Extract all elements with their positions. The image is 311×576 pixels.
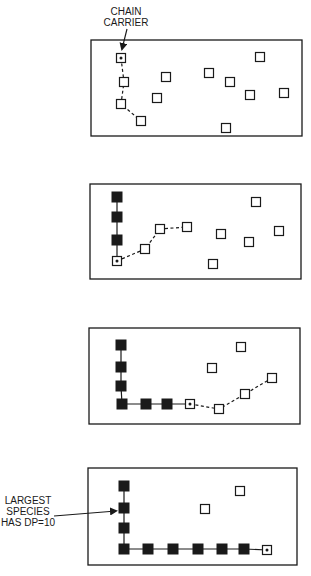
monomer-open-square-icon	[217, 230, 226, 239]
monomer-open-square-icon	[246, 91, 255, 100]
monomer-open-square-icon	[162, 73, 171, 82]
monomer-reacted-square-icon	[116, 381, 126, 391]
monomer-open-square-icon	[205, 69, 214, 78]
polymer-chain-bond	[121, 345, 190, 404]
monomer-open-square-icon	[268, 374, 277, 383]
chain-carrier-arrow-icon	[122, 29, 127, 49]
panel-3	[89, 328, 300, 424]
chain-carrier-label-line1: CHAIN	[110, 6, 141, 17]
monomer-open-square-icon	[241, 390, 250, 399]
monomer-open-square-icon	[209, 260, 218, 269]
monomer-open-square-icon	[117, 100, 126, 109]
monomer-open-square-icon	[141, 245, 150, 254]
chain-carrier-annotation: CHAIN CARRIER	[103, 6, 148, 49]
monomer-reacted-square-icon	[193, 544, 203, 554]
chain-carrier-dot-icon	[120, 57, 123, 60]
monomer-open-square-icon	[183, 223, 192, 232]
monomer-open-square-icon	[120, 78, 129, 87]
monomer-reacted-square-icon	[162, 399, 172, 409]
monomer-open-square-icon	[275, 227, 284, 236]
panels-group	[88, 40, 302, 565]
monomer-reacted-square-icon	[119, 503, 129, 513]
monomer-open-square-icon	[256, 53, 265, 62]
monomer-reacted-square-icon	[168, 544, 178, 554]
chain-carrier-dot-icon	[189, 403, 192, 406]
monomer-reacted-square-icon	[119, 481, 129, 491]
monomer-open-square-icon	[280, 89, 289, 98]
panel-2	[90, 184, 301, 279]
chain-carrier-dot-icon	[266, 549, 269, 552]
monomer-open-square-icon	[236, 487, 245, 496]
monomer-open-square-icon	[215, 405, 224, 414]
chain-carrier-label-line2: CARRIER	[103, 17, 148, 28]
polymer-chain-bond	[124, 486, 267, 550]
monomer-open-square-icon	[153, 94, 162, 103]
monomer-reacted-square-icon	[112, 192, 122, 202]
largest-species-annotation: LARGEST SPECIES HAS DP=10	[1, 495, 116, 528]
panel-4	[88, 468, 297, 565]
monomer-open-square-icon	[245, 238, 254, 247]
monomer-reacted-square-icon	[217, 544, 227, 554]
largest-species-arrow-icon	[54, 511, 116, 516]
largest-species-label-line2: SPECIES	[6, 506, 50, 517]
monomer-open-square-icon	[226, 78, 235, 87]
reaction-path-dashed	[117, 227, 187, 261]
monomer-reacted-square-icon	[117, 399, 127, 409]
monomer-open-square-icon	[208, 364, 217, 373]
monomer-open-square-icon	[237, 343, 246, 352]
monomer-open-square-icon	[156, 225, 165, 234]
monomer-reacted-square-icon	[112, 235, 122, 245]
chain-carrier-dot-icon	[116, 260, 119, 263]
monomer-reacted-square-icon	[116, 340, 126, 350]
monomer-open-square-icon	[201, 505, 210, 514]
largest-species-label-line1: LARGEST	[5, 495, 52, 506]
monomer-reacted-square-icon	[143, 544, 153, 554]
monomer-open-square-icon	[137, 117, 146, 126]
monomer-reacted-square-icon	[239, 544, 249, 554]
monomer-reacted-square-icon	[112, 212, 122, 222]
monomer-reacted-square-icon	[116, 362, 126, 372]
reaction-path-dashed	[190, 378, 272, 409]
panel-1	[91, 40, 302, 136]
largest-species-label-line3: HAS DP=10	[1, 517, 56, 528]
monomer-open-square-icon	[222, 124, 231, 133]
monomer-reacted-square-icon	[119, 544, 129, 554]
diagram-canvas: CHAIN CARRIER LARGEST SPECIES HAS DP=10	[0, 0, 311, 576]
monomer-reacted-square-icon	[119, 523, 129, 533]
monomer-open-square-icon	[252, 198, 261, 207]
reaction-path-dashed	[121, 58, 141, 121]
monomer-reacted-square-icon	[141, 399, 151, 409]
